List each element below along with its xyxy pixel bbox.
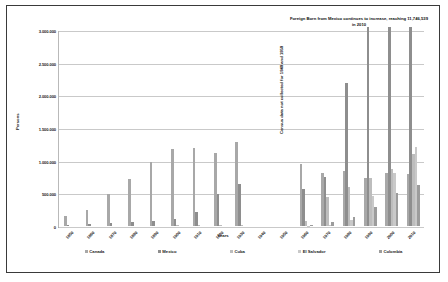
y-axis-tick-label: 0: [54, 225, 56, 230]
plot-area: 3.000.0002.500.0002.000.0001.500.0001.00…: [58, 31, 424, 228]
annotation-mexico-note: Foreign Born from Mexico continues to in…: [289, 16, 429, 29]
bar: [128, 179, 131, 226]
legend-label: Colombia: [383, 249, 402, 254]
bar-group: [231, 31, 252, 226]
legend-label: Mexico: [162, 249, 176, 254]
y-axis-tick-label: 500.000: [42, 192, 56, 197]
legend-item-cuba[interactable]: Cuba: [230, 249, 245, 254]
bar-group: [60, 31, 81, 226]
legend-item-el-salvador[interactable]: El Salvador: [298, 249, 326, 254]
legend-label: Canada: [89, 249, 104, 254]
bar-group: [317, 31, 338, 226]
bar: [131, 222, 134, 226]
legend-item-canada[interactable]: Canada: [85, 249, 105, 254]
bar-group: [81, 31, 102, 226]
legend-swatch-icon: [379, 250, 382, 253]
bar: [396, 193, 399, 226]
x-axis-title: Years: [7, 233, 439, 238]
bar: [310, 225, 313, 226]
bar: [171, 149, 174, 226]
bar-group: [146, 31, 167, 226]
bar-group: [274, 31, 295, 226]
bar: [198, 225, 201, 226]
bar: [353, 217, 356, 226]
bar: [107, 194, 110, 226]
bar-group: [360, 31, 381, 226]
bar: [110, 223, 113, 226]
bar-group: [295, 31, 316, 226]
bar: [217, 194, 220, 226]
chart-legend: CanadaMexicoCubaEl SalvadorColombia: [58, 249, 429, 254]
bar-groups: [60, 31, 424, 226]
bar: [326, 197, 329, 226]
bar: [176, 225, 179, 226]
bar: [241, 225, 244, 226]
y-axis-title: Persons: [15, 113, 20, 130]
y-axis-tick-label: 1.000.000: [39, 159, 56, 164]
bar-group: [188, 31, 209, 226]
bar: [150, 162, 153, 226]
bar-group: [124, 31, 145, 226]
y-axis-tick-label: 3.000.000: [39, 29, 56, 34]
bar: [238, 184, 241, 226]
legend-swatch-icon: [230, 250, 233, 253]
legend-label: El Salvador: [303, 249, 326, 254]
legend-item-colombia[interactable]: Colombia: [379, 249, 403, 254]
bar: [417, 185, 420, 226]
bar: [195, 212, 198, 226]
bar-group: [381, 31, 402, 226]
y-axis-tick-label: 2.000.000: [39, 94, 56, 99]
chart-figure: Persons Foreign Born from Mexico continu…: [6, 5, 440, 273]
bar: [219, 225, 222, 226]
bar-group: [403, 31, 424, 226]
legend-swatch-icon: [85, 250, 88, 253]
legend-label: Cuba: [234, 249, 244, 254]
bar: [67, 225, 70, 226]
bar-group: [103, 31, 124, 226]
bar: [152, 221, 155, 226]
y-axis-tick-label: 1.500.000: [39, 127, 56, 132]
bar-group: [253, 31, 274, 226]
bar-group: [338, 31, 359, 226]
y-axis-tick-label: 2.500.000: [39, 61, 56, 66]
bar: [374, 207, 377, 226]
legend-swatch-icon: [158, 250, 161, 253]
bar-group: [210, 31, 231, 226]
bar: [331, 222, 334, 226]
legend-item-mexico[interactable]: Mexico: [158, 249, 177, 254]
legend-swatch-icon: [298, 250, 301, 253]
annotation-census-note: Census data not collected for 1940 and 1…: [279, 46, 284, 134]
bar-group: [167, 31, 188, 226]
bar: [88, 224, 91, 226]
